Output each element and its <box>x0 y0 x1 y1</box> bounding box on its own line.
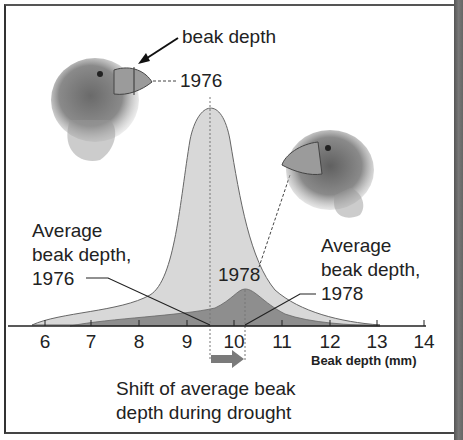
x-tick-8: 8 <box>134 331 145 353</box>
x-tick-9: 9 <box>182 331 193 353</box>
x-tick-14: 14 <box>413 331 434 353</box>
x-tick-10: 10 <box>223 331 244 353</box>
beak-depth-pointer-label: beak depth <box>182 26 276 48</box>
x-tick-7: 7 <box>86 331 97 353</box>
leader-1978-bird <box>259 175 290 267</box>
x-tick-13: 13 <box>366 331 387 353</box>
year-1978-label: 1978 <box>218 264 260 286</box>
pointer-arrow-icon <box>138 53 150 64</box>
finch-1978-illustration <box>282 130 374 218</box>
x-tick-12: 12 <box>319 331 340 353</box>
x-tick-6: 6 <box>40 331 51 353</box>
finch-1976-illustration <box>51 58 152 161</box>
year-1976-label: 1976 <box>180 70 222 92</box>
x-axis-label: Beak depth (mm) <box>311 353 416 368</box>
x-tick-11: 11 <box>272 331 292 353</box>
